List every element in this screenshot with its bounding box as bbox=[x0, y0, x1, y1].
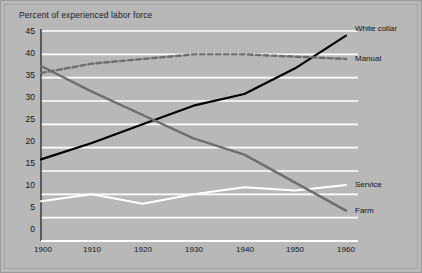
axis-lines bbox=[41, 29, 358, 241]
x-tick-1920: 1920 bbox=[123, 245, 163, 254]
x-tick-1940: 1940 bbox=[225, 245, 265, 254]
y-tick-0: 0 bbox=[9, 224, 35, 234]
y-tick-40: 40 bbox=[9, 48, 35, 58]
y-tick-15: 15 bbox=[9, 158, 35, 168]
x-tick-1900: 1900 bbox=[23, 245, 63, 254]
y-tick-25: 25 bbox=[9, 114, 35, 124]
plot-area bbox=[1, 1, 422, 273]
series-lines bbox=[41, 36, 346, 211]
y-tick-45: 45 bbox=[9, 26, 35, 36]
y-tick-20: 20 bbox=[9, 136, 35, 146]
series-label-white-collar: White collar bbox=[355, 24, 397, 33]
series-label-manual: Manual bbox=[355, 54, 381, 63]
y-tick-5: 5 bbox=[9, 202, 35, 212]
y-tick-35: 35 bbox=[9, 70, 35, 80]
series-label-service: Service bbox=[355, 180, 382, 189]
x-tick-1950: 1950 bbox=[275, 245, 315, 254]
series-line-farm bbox=[41, 66, 346, 211]
series-label-farm: Farm bbox=[355, 206, 374, 215]
y-tick-10: 10 bbox=[9, 180, 35, 190]
y-tick-30: 30 bbox=[9, 92, 35, 102]
series-line-manual bbox=[41, 54, 346, 73]
x-tick-1930: 1930 bbox=[174, 245, 214, 254]
chart-figure: Percent of experienced labor force 45 40… bbox=[0, 0, 422, 273]
x-tick-1960: 1960 bbox=[326, 245, 366, 254]
x-tick-1910: 1910 bbox=[72, 245, 112, 254]
